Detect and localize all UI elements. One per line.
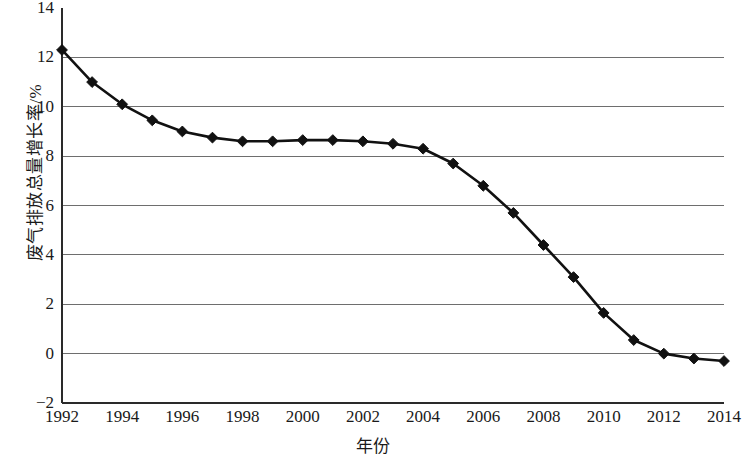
y-axis-tick-label: 0 — [20, 345, 54, 362]
x-axis-tick-label: 2012 — [634, 408, 694, 425]
data-point-marker — [388, 138, 399, 149]
x-axis-tick-label: 2000 — [273, 408, 333, 425]
data-point-marker — [267, 136, 278, 147]
x-axis-title: 年份 — [0, 432, 746, 457]
y-axis-tick-label: 2 — [20, 295, 54, 312]
data-point-marker — [689, 353, 700, 364]
x-axis-tick-label: 1992 — [32, 408, 92, 425]
data-point-marker — [297, 135, 308, 146]
x-axis-tick-label: 2010 — [574, 408, 634, 425]
x-axis-tick-label: 2002 — [333, 408, 393, 425]
x-axis-tick-label: 2004 — [393, 408, 453, 425]
data-point-marker — [207, 132, 218, 143]
data-point-marker — [418, 143, 429, 154]
gridlines — [62, 57, 724, 403]
x-axis-tick-label: 1996 — [152, 408, 212, 425]
x-axis-tick-label: 2014 — [694, 408, 746, 425]
data-point-marker — [327, 135, 338, 146]
data-point-marker — [177, 126, 188, 137]
chart-plot-area — [0, 0, 746, 460]
data-point-marker — [658, 348, 669, 359]
data-point-marker — [358, 136, 369, 147]
x-axis-tick-label: 1994 — [92, 408, 152, 425]
y-axis-title: 废气排放总量增长率/% — [21, 48, 46, 298]
x-axis-tick-label: 1998 — [213, 408, 273, 425]
x-axis-tick-label: 2008 — [513, 408, 573, 425]
data-point-marker — [147, 115, 158, 126]
chart-container: 14121086420−2 19921994199619982000200220… — [0, 0, 746, 460]
data-point-marker — [237, 136, 248, 147]
x-axis-tick-label: 2006 — [453, 408, 513, 425]
data-point-marker — [719, 356, 730, 367]
y-axis-tick-label: 14 — [20, 0, 54, 16]
